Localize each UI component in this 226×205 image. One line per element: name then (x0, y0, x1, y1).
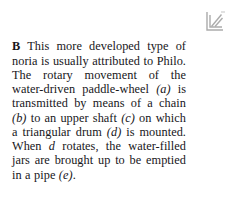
caption-text-3: to an upper shaft (27, 111, 122, 125)
caption-ref-c: (c) (121, 111, 135, 125)
scanned-page: B This more developed type of noria is u… (0, 0, 226, 205)
line-drawing-fragment-icon (202, 10, 226, 34)
caption-ref-a: (a) (156, 82, 171, 96)
caption-ref-e: (e) (59, 168, 73, 182)
caption-ref-d: (d) (107, 125, 122, 139)
figure-caption: B This more developed type of noria is u… (12, 39, 186, 182)
caption-ref-b: (b) (12, 111, 27, 125)
caption-label: B (12, 39, 20, 53)
caption-text-7: . (73, 168, 76, 182)
